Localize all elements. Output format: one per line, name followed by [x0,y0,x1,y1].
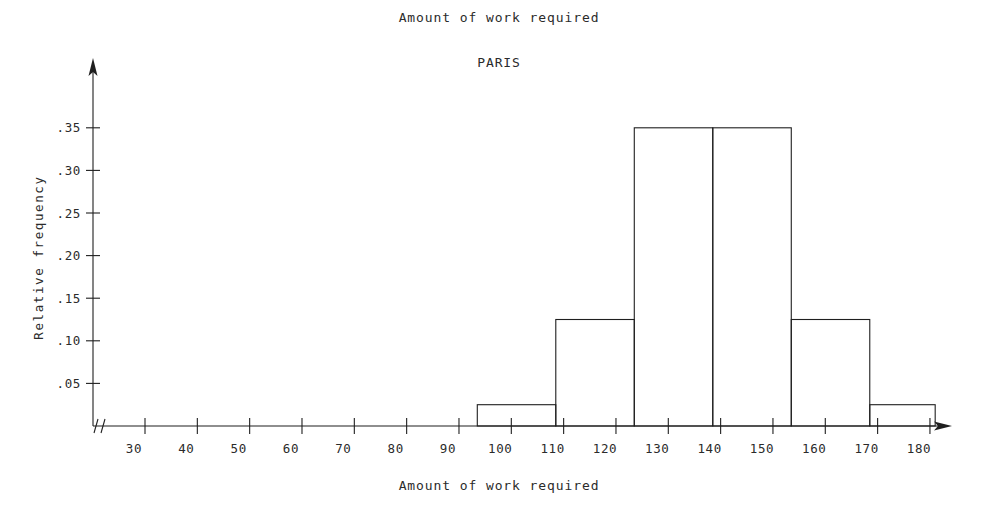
histogram-bar [477,405,555,426]
x-tick-label: 90 [440,441,456,456]
x-tick-label: 120 [593,441,617,456]
x-tick-label: 100 [488,441,512,456]
y-tick-label: .30 [57,163,81,178]
histogram-bar [870,405,935,426]
x-tick-label: 140 [697,441,721,456]
x-tick-label: 70 [335,441,351,456]
y-tick-label: .10 [57,333,81,348]
histogram-bars [477,128,935,426]
y-tick-label: .35 [57,120,81,135]
histogram-bar [634,128,712,426]
y-tick-label: .05 [57,376,81,391]
x-tick-label: 130 [645,441,669,456]
x-tick-label: 50 [231,441,247,456]
x-tick-label: 110 [540,441,564,456]
y-tick-label-group: .35.30.25.20.15.10.05 [57,120,81,391]
histogram-bar [556,320,634,427]
x-tick-label: 160 [802,441,826,456]
histogram-bar [713,128,791,426]
x-tick-label-group: 3040506070809010011012013014015016017018… [126,441,931,456]
x-tick-label: 170 [854,441,878,456]
y-tick-label: .20 [57,248,81,263]
x-tick-label: 80 [388,441,404,456]
plot-area: .35.30.25.20.15.10.05 304050607080901001… [0,0,998,519]
histogram-figure: Amount of work required PARIS Relative f… [0,0,998,519]
x-tick-label: 30 [126,441,142,456]
x-tick-label: 60 [283,441,299,456]
x-tick-label: 150 [750,441,774,456]
y-tick-label: .15 [57,291,81,306]
y-tick-label: .25 [57,206,81,221]
x-tick-label: 180 [907,441,931,456]
histogram-bar [791,320,869,427]
x-tick-label: 40 [178,441,194,456]
